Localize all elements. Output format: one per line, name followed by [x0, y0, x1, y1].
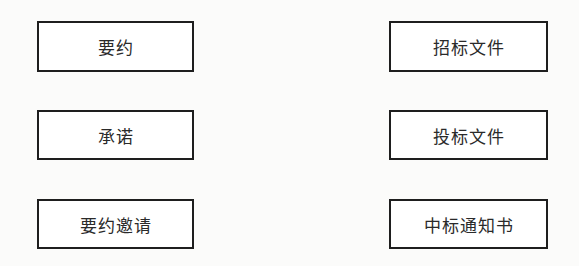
box-notice-of-award: 中标通知书 — [389, 199, 548, 249]
box-label: 投标文件 — [433, 123, 505, 148]
box-bid-documents: 投标文件 — [389, 110, 548, 160]
box-label: 要约邀请 — [80, 212, 152, 237]
box-label: 承诺 — [98, 123, 134, 148]
box-label: 中标通知书 — [424, 212, 514, 237]
box-acceptance: 承诺 — [37, 110, 194, 160]
box-tender-documents: 招标文件 — [389, 21, 548, 72]
box-label: 要约 — [98, 34, 134, 59]
box-offer: 要约 — [37, 21, 194, 72]
box-invitation-to-offer: 要约邀请 — [37, 199, 194, 249]
box-label: 招标文件 — [433, 34, 505, 59]
